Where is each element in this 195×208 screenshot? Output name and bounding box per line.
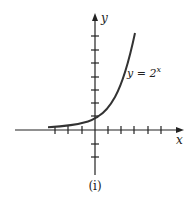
caption: (i) — [88, 179, 101, 193]
exponential-graph: y x y = 2x (i) — [0, 0, 195, 208]
curve-label: y = 2x — [126, 65, 161, 80]
curve-y-2x — [48, 33, 135, 127]
y-axis-arrow-icon — [92, 13, 98, 21]
y-axis-label: y — [100, 11, 108, 25]
x-axis-label: x — [176, 133, 183, 147]
